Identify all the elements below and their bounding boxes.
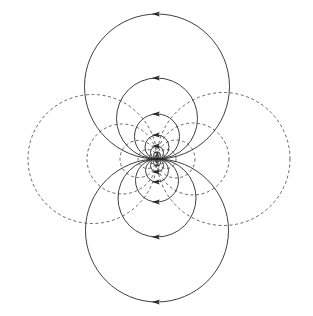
figure-background [0,0,313,316]
dipole-field-svg [0,0,313,316]
dipole-center-point [156,158,158,160]
dipole-figure-canvas [0,0,313,316]
